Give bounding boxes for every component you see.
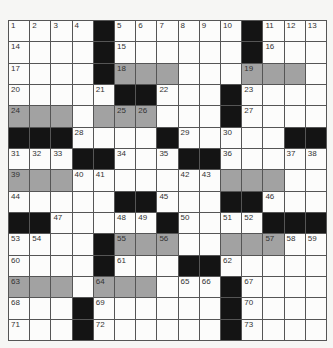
grid-cell[interactable]: 54 — [30, 234, 50, 254]
grid-cell[interactable] — [157, 298, 177, 318]
shaded-cell[interactable] — [242, 170, 262, 190]
grid-cell[interactable] — [306, 85, 326, 105]
grid-cell[interactable] — [263, 106, 283, 126]
grid-cell[interactable] — [30, 298, 50, 318]
grid-cell[interactable] — [200, 234, 220, 254]
grid-cell[interactable] — [263, 128, 283, 148]
grid-cell[interactable] — [136, 170, 156, 190]
grid-cell[interactable] — [285, 42, 305, 62]
grid-cell[interactable]: 17 — [9, 64, 29, 84]
grid-cell[interactable] — [179, 85, 199, 105]
grid-cell[interactable] — [285, 85, 305, 105]
grid-cell[interactable] — [306, 170, 326, 190]
grid-cell[interactable] — [306, 277, 326, 297]
grid-cell[interactable]: 33 — [51, 149, 71, 169]
grid-cell[interactable]: 65 — [179, 277, 199, 297]
grid-cell[interactable] — [157, 42, 177, 62]
grid-cell[interactable]: 6 — [136, 21, 156, 41]
grid-cell[interactable]: 46 — [263, 192, 283, 212]
grid-cell[interactable]: 38 — [306, 149, 326, 169]
grid-cell[interactable] — [157, 277, 177, 297]
grid-cell[interactable] — [30, 192, 50, 212]
grid-cell[interactable]: 50 — [179, 213, 199, 233]
grid-cell[interactable]: 1 — [9, 21, 29, 41]
grid-cell[interactable]: 53 — [9, 234, 29, 254]
grid-cell[interactable]: 29 — [179, 128, 199, 148]
grid-cell[interactable]: 7 — [157, 21, 177, 41]
shaded-cell[interactable] — [242, 234, 262, 254]
grid-cell[interactable]: 10 — [221, 21, 241, 41]
grid-cell[interactable]: 59 — [306, 234, 326, 254]
grid-cell[interactable]: 51 — [221, 213, 241, 233]
grid-cell[interactable] — [221, 42, 241, 62]
grid-cell[interactable] — [306, 320, 326, 340]
grid-cell[interactable]: 44 — [9, 192, 29, 212]
grid-cell[interactable]: 71 — [9, 320, 29, 340]
shaded-cell[interactable] — [94, 106, 114, 126]
grid-cell[interactable]: 3 — [51, 21, 71, 41]
grid-cell[interactable]: 40 — [73, 170, 93, 190]
grid-cell[interactable] — [30, 42, 50, 62]
grid-cell[interactable] — [242, 128, 262, 148]
grid-cell[interactable]: 2 — [30, 21, 50, 41]
grid-cell[interactable]: 16 — [263, 42, 283, 62]
grid-cell[interactable]: 45 — [157, 192, 177, 212]
grid-cell[interactable] — [115, 128, 135, 148]
grid-cell[interactable] — [73, 277, 93, 297]
grid-cell[interactable] — [73, 256, 93, 276]
grid-cell[interactable]: 35 — [157, 149, 177, 169]
grid-cell[interactable] — [285, 256, 305, 276]
grid-cell[interactable] — [136, 256, 156, 276]
grid-cell[interactable]: 23 — [242, 85, 262, 105]
grid-cell[interactable] — [179, 320, 199, 340]
grid-cell[interactable]: 49 — [136, 213, 156, 233]
grid-cell[interactable] — [30, 320, 50, 340]
grid-cell[interactable] — [136, 298, 156, 318]
grid-cell[interactable]: 4 — [73, 21, 93, 41]
grid-cell[interactable] — [157, 170, 177, 190]
shaded-cell[interactable] — [221, 170, 241, 190]
grid-cell[interactable]: 5 — [115, 21, 135, 41]
grid-cell[interactable]: 41 — [94, 170, 114, 190]
grid-cell[interactable] — [157, 256, 177, 276]
grid-cell[interactable] — [263, 149, 283, 169]
shaded-cell[interactable] — [285, 64, 305, 84]
grid-cell[interactable]: 15 — [115, 42, 135, 62]
shaded-cell[interactable] — [157, 64, 177, 84]
grid-cell[interactable] — [285, 277, 305, 297]
grid-cell[interactable] — [242, 149, 262, 169]
grid-cell[interactable]: 11 — [263, 21, 283, 41]
shaded-cell[interactable]: 39 — [9, 170, 29, 190]
grid-cell[interactable] — [30, 64, 50, 84]
shaded-cell[interactable] — [30, 106, 50, 126]
grid-cell[interactable] — [200, 85, 220, 105]
grid-cell[interactable]: 47 — [51, 213, 71, 233]
shaded-cell[interactable]: 25 — [115, 106, 135, 126]
shaded-cell[interactable]: 18 — [115, 64, 135, 84]
grid-cell[interactable] — [73, 192, 93, 212]
grid-cell[interactable]: 66 — [200, 277, 220, 297]
grid-cell[interactable]: 67 — [242, 277, 262, 297]
grid-cell[interactable] — [94, 213, 114, 233]
grid-cell[interactable]: 22 — [157, 85, 177, 105]
grid-cell[interactable]: 48 — [115, 213, 135, 233]
grid-cell[interactable] — [306, 64, 326, 84]
grid-cell[interactable] — [221, 64, 241, 84]
grid-cell[interactable]: 42 — [179, 170, 199, 190]
grid-cell[interactable] — [200, 106, 220, 126]
grid-cell[interactable] — [306, 106, 326, 126]
grid-cell[interactable]: 30 — [221, 128, 241, 148]
shaded-cell[interactable] — [30, 277, 50, 297]
shaded-cell[interactable]: 63 — [9, 277, 29, 297]
grid-cell[interactable] — [200, 320, 220, 340]
grid-cell[interactable]: 52 — [242, 213, 262, 233]
grid-cell[interactable]: 37 — [285, 149, 305, 169]
grid-cell[interactable]: 20 — [9, 85, 29, 105]
grid-cell[interactable] — [115, 298, 135, 318]
shaded-cell[interactable] — [221, 234, 241, 254]
grid-cell[interactable] — [136, 149, 156, 169]
grid-cell[interactable] — [285, 106, 305, 126]
grid-cell[interactable] — [285, 170, 305, 190]
shaded-cell[interactable] — [51, 277, 71, 297]
grid-cell[interactable] — [136, 42, 156, 62]
